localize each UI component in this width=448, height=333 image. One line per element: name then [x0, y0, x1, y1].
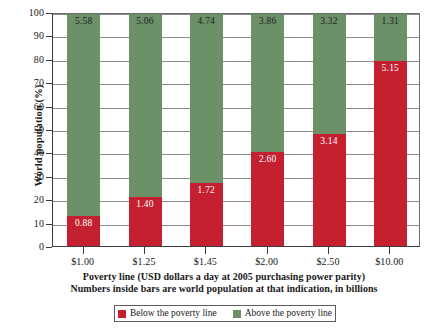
x-tick-label: $2.00 — [232, 256, 302, 268]
x-tick-label: $10.00 — [354, 256, 424, 268]
legend-item[interactable]: Below the poverty line — [118, 308, 217, 319]
y-tick-label: 30 — [4, 172, 44, 182]
bar-segment-below[interactable]: 1.40 — [129, 197, 162, 246]
x-tick-mark — [328, 247, 329, 254]
bar-segment-above[interactable]: 3.86 — [251, 14, 284, 154]
y-tick-label: 40 — [4, 148, 44, 158]
legend-swatch-icon — [118, 310, 126, 318]
y-tick-label: 80 — [4, 55, 44, 65]
y-tick-label: 70 — [4, 78, 44, 88]
bar-value-label-below: 0.88 — [67, 218, 100, 229]
x-tick-mark — [267, 247, 268, 254]
bar-segment-above[interactable]: 5.06 — [129, 14, 162, 199]
bar-segment-above[interactable]: 4.74 — [190, 14, 223, 185]
chart-legend: Below the poverty lineAbove the poverty … — [114, 305, 336, 322]
bar-segment-above[interactable]: 3.32 — [313, 14, 346, 136]
y-tick-label: 100 — [4, 8, 44, 18]
bar-segment-below[interactable]: 5.15 — [374, 61, 407, 246]
x-tick-mark — [83, 247, 84, 254]
stacked-bar[interactable]: 3.862.60 — [251, 14, 284, 246]
stacked-bar[interactable]: 4.741.72 — [190, 14, 223, 246]
y-tick-mark — [46, 247, 52, 248]
gridline — [53, 178, 419, 179]
gridline — [53, 61, 419, 62]
stacked-bar[interactable]: 3.323.14 — [313, 14, 346, 246]
x-tick-mark — [389, 247, 390, 254]
x-tick-label: $1.25 — [109, 256, 179, 268]
bar-value-label-below: 2.60 — [251, 154, 284, 165]
x-tick-mark — [205, 247, 206, 254]
gridline — [53, 14, 419, 15]
bar-segment-above[interactable]: 5.58 — [67, 14, 100, 218]
plot-area: 5.580.885.061.404.741.723.862.603.323.14… — [52, 13, 420, 247]
y-tick-label: 20 — [4, 195, 44, 205]
bar-segment-below[interactable]: 0.88 — [67, 216, 100, 246]
chart-figure: World population (%) 1009080706050403020… — [0, 0, 448, 333]
y-tick-label: 90 — [4, 31, 44, 41]
gridline — [53, 37, 419, 38]
bar-value-label-above: 1.31 — [374, 16, 407, 27]
bar-segment-below[interactable]: 1.72 — [190, 183, 223, 246]
gridline — [53, 201, 419, 202]
x-tick-label: $1.45 — [170, 256, 240, 268]
gridline — [53, 154, 419, 155]
bar-value-label-below: 5.15 — [374, 63, 407, 74]
bar-value-label-above: 3.32 — [313, 16, 346, 27]
bar-value-label-below: 3.14 — [313, 136, 346, 147]
gridline — [53, 84, 419, 85]
x-tick-label: $2.50 — [293, 256, 363, 268]
y-tick-label: 0 — [4, 242, 44, 252]
caption-line-2: Numbers inside bars are world population… — [0, 283, 448, 295]
y-tick-label: 50 — [4, 125, 44, 135]
legend-label: Above the poverty line — [245, 308, 332, 319]
gridline — [53, 225, 419, 226]
stacked-bar[interactable]: 5.061.40 — [129, 14, 162, 246]
bar-value-label-above: 4.74 — [190, 16, 223, 27]
gridline — [53, 131, 419, 132]
bar-segment-below[interactable]: 2.60 — [251, 152, 284, 246]
bar-value-label-above: 5.58 — [67, 16, 100, 27]
bar-segment-above[interactable]: 1.31 — [374, 14, 407, 63]
bar-segment-below[interactable]: 3.14 — [313, 134, 346, 246]
caption-line-1: Poverty line (USD dollars a day at 2005 … — [0, 271, 448, 283]
x-tick-mark — [144, 247, 145, 254]
chart-caption: Poverty line (USD dollars a day at 2005 … — [0, 271, 448, 296]
stacked-bar[interactable]: 1.315.15 — [374, 14, 407, 246]
gridline — [53, 108, 419, 109]
stacked-bar[interactable]: 5.580.88 — [67, 14, 100, 246]
legend-label: Below the poverty line — [130, 308, 217, 319]
y-tick-label: 10 — [4, 219, 44, 229]
legend-item[interactable]: Above the poverty line — [233, 308, 332, 319]
bar-value-label-below: 1.40 — [129, 199, 162, 210]
bar-value-label-below: 1.72 — [190, 185, 223, 196]
bar-value-label-above: 5.06 — [129, 16, 162, 27]
legend-swatch-icon — [233, 310, 241, 318]
y-tick-label: 60 — [4, 102, 44, 112]
x-tick-label: $1.00 — [48, 256, 118, 268]
bar-value-label-above: 3.86 — [251, 16, 284, 27]
